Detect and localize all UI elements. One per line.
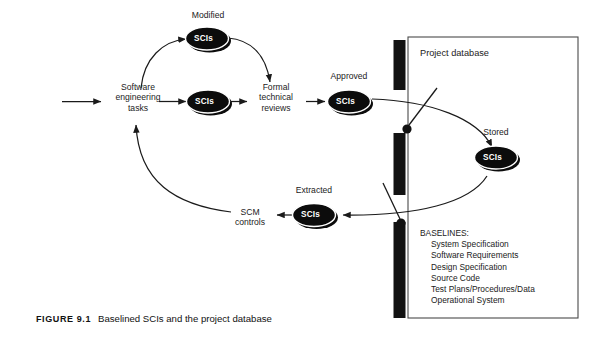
state-label-stored: Stored — [470, 127, 522, 137]
state-label-extracted: Extracted — [284, 185, 344, 195]
baseline-item: Test Plans/Procedures/Data — [420, 284, 535, 295]
baselines-heading: BASELINES: — [420, 228, 535, 239]
node-text-stored-sci: SCIs — [483, 153, 502, 162]
baseline-item: System Specification — [420, 239, 535, 250]
boundary-pointer-dot-lower — [396, 218, 405, 227]
figure-caption-text: Baselined SCIs and the project database — [98, 313, 272, 324]
edge-tasks-to-modified — [141, 39, 186, 88]
state-label-approved: Approved — [320, 71, 378, 81]
state-label-modified: Modified — [179, 10, 237, 20]
node-label-scm-controls: SCM controls — [222, 207, 278, 228]
edge-modified-to-reviews — [228, 38, 270, 82]
database-boundary-bar-middle — [394, 133, 406, 195]
node-label-software-engineering-tasks: Software engineering tasks — [98, 82, 178, 113]
node-label-formal-technical-reviews: Formal technical reviews — [245, 82, 307, 113]
node-text-approved-sci: SCIs — [336, 97, 355, 106]
project-database-title: Project database — [420, 48, 489, 58]
baseline-item: Source Code — [420, 273, 535, 284]
boundary-pointer-dot-upper — [402, 124, 411, 133]
baseline-item: Design Specification — [420, 262, 535, 273]
database-boundary-bar-top — [394, 40, 406, 90]
node-text-extracted-sci: SCIs — [301, 210, 320, 219]
figure-container: Software engineering tasks Formal techni… — [0, 0, 595, 347]
edge-scm-to-tasks — [136, 125, 231, 212]
database-boundary-bar-bottom — [394, 222, 406, 318]
baselines-list: BASELINES: System Specification Software… — [420, 228, 535, 306]
node-text-sci: SCIs — [195, 97, 214, 106]
figure-caption: FIGURE 9.1Baselined SCIs and the project… — [36, 313, 272, 324]
node-text-modified-sci: SCIs — [194, 34, 213, 43]
figure-caption-number: FIGURE 9.1 — [36, 314, 91, 324]
baseline-item: Operational System — [420, 295, 535, 306]
baseline-item: Software Requirements — [420, 250, 535, 261]
